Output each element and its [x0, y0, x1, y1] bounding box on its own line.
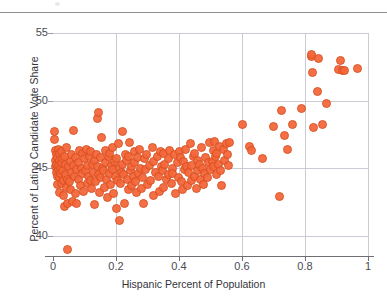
data-point — [217, 181, 226, 190]
x-tick-mark-0.6 — [242, 256, 243, 261]
data-point — [269, 122, 278, 131]
plot-area — [53, 33, 368, 256]
gridline-x-0.4 — [179, 33, 180, 256]
data-point — [309, 123, 318, 132]
x-axis-line — [45, 256, 374, 257]
data-point — [275, 192, 284, 201]
data-point — [353, 64, 362, 73]
x-tick-mark-0.8 — [305, 256, 306, 261]
x-tick-label-0.8: 0.8 — [290, 261, 320, 272]
data-point — [120, 199, 129, 208]
data-point — [258, 154, 267, 163]
data-point — [313, 87, 322, 96]
data-point — [223, 150, 232, 159]
page-artifact-mark — [55, 2, 60, 6]
data-point — [125, 138, 134, 147]
gridline-x-1 — [368, 33, 369, 256]
gridline-y-40 — [53, 236, 368, 237]
gridline-y-55 — [53, 33, 368, 34]
data-point — [197, 143, 206, 152]
data-point — [94, 108, 103, 117]
data-point — [115, 216, 124, 225]
data-point — [203, 173, 212, 182]
x-tick-label-0.2: 0.2 — [101, 261, 131, 272]
data-point — [280, 131, 289, 140]
data-point — [277, 106, 286, 115]
data-point — [63, 245, 72, 254]
gridline-y-50 — [53, 101, 368, 102]
page-divider-rule — [0, 12, 387, 13]
x-tick-label-0.4: 0.4 — [164, 261, 194, 272]
data-point — [238, 120, 247, 129]
data-point — [216, 166, 225, 175]
data-point — [283, 145, 292, 154]
data-point — [340, 66, 349, 75]
x-tick-label-0: 0 — [38, 261, 68, 272]
x-tick-mark-1 — [368, 256, 369, 261]
data-point — [114, 139, 123, 148]
data-point — [308, 68, 317, 77]
data-point — [336, 56, 345, 65]
x-axis-title: Hispanic Percent of Population — [0, 278, 387, 290]
gridline-x-0.8 — [305, 33, 306, 256]
data-point — [97, 133, 106, 142]
data-point — [186, 139, 195, 148]
data-point — [90, 200, 99, 209]
x-tick-mark-0 — [53, 256, 54, 261]
data-point — [71, 189, 80, 198]
x-tick-label-1: 1 — [353, 261, 383, 272]
data-point — [139, 199, 148, 208]
data-point — [288, 120, 297, 129]
data-point — [247, 146, 256, 155]
x-tick-mark-0.2 — [116, 256, 117, 261]
data-point — [318, 120, 327, 129]
scatter-plot-figure: 55504540 00.20.40.60.81 Hispanic Percent… — [0, 0, 387, 300]
data-point — [69, 126, 78, 135]
y-axis-title-host: Percent of Latino Candidate Vote Share — [16, 18, 30, 238]
x-tick-label-0.6: 0.6 — [227, 261, 257, 272]
data-point — [50, 135, 59, 144]
gridline-x-0.6 — [242, 33, 243, 256]
data-point — [322, 99, 331, 108]
data-point — [225, 138, 234, 147]
x-tick-mark-0.4 — [179, 256, 180, 261]
data-point — [112, 204, 121, 213]
data-point — [72, 199, 81, 208]
data-point — [314, 54, 323, 63]
y-axis-title: Percent of Latino Candidate Vote Share — [28, 49, 40, 249]
data-point — [118, 127, 127, 136]
